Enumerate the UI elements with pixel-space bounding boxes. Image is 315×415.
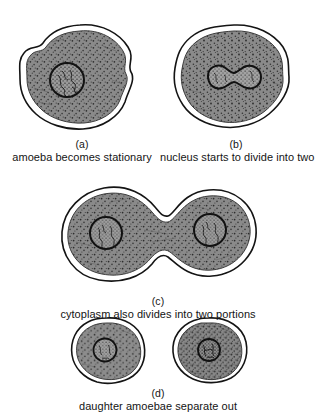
amoeba-illustration-a — [8, 18, 156, 136]
caption-letter-b: (b) — [160, 138, 312, 150]
caption-b: (b) nucleus starts to divide into two — [160, 138, 312, 164]
caption-a: (a) amoeba becomes stationary — [8, 138, 156, 164]
stage-a: (a) amoeba becomes stationary — [8, 18, 156, 164]
caption-letter-a: (a) — [8, 138, 156, 150]
caption-letter-d: (d) — [56, 387, 260, 399]
amoeba-binary-fission-figure: (a) amoeba becomes stationary — [0, 0, 315, 415]
caption-letter-c: (c) — [44, 295, 272, 307]
stage-b: (b) nucleus starts to divide into two — [160, 18, 312, 164]
stage-d: (d) daughter amoebae separate out — [56, 314, 260, 413]
caption-text-a: amoeba becomes stationary — [8, 151, 156, 164]
caption-text-d: daughter amoebae separate out — [56, 400, 260, 413]
stage-c: (c) cytoplasm also divides into two port… — [44, 176, 272, 321]
nucleus-d-left — [94, 339, 117, 362]
daughter-amoeba-right — [163, 314, 255, 386]
amoeba-illustration-c — [44, 176, 272, 294]
nucleus-a — [50, 63, 84, 97]
caption-d: (d) daughter amoebae separate out — [56, 387, 260, 413]
nucleus-c-right — [194, 214, 226, 246]
nucleus-c-left — [90, 217, 122, 249]
nucleus-d-right — [198, 339, 220, 361]
caption-text-b: nucleus starts to divide into two — [160, 151, 312, 164]
daughter-cell-row — [56, 314, 260, 386]
daughter-amoeba-left — [61, 314, 153, 386]
amoeba-illustration-b — [160, 18, 312, 136]
